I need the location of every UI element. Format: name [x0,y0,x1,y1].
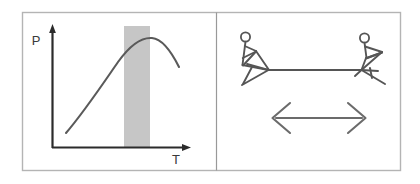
figure-canvas: P T [0,0,420,184]
right-figure-head [360,33,369,42]
figure-root: P T [0,0,420,184]
y-axis-label: P [32,33,41,48]
left-figure-head [241,32,250,41]
optimum-band-highlight [124,26,150,147]
x-axis-label: T [172,152,180,167]
